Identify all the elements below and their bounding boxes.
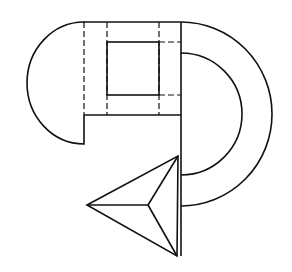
triangle xyxy=(87,156,178,256)
outer-arc xyxy=(181,22,272,206)
inner-arc xyxy=(181,53,242,175)
geometric-diagram xyxy=(0,0,292,272)
left-half-disc xyxy=(27,22,84,144)
inner-square xyxy=(107,42,159,95)
